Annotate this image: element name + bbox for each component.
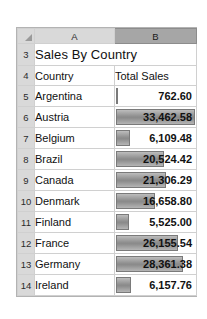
row-header-6[interactable]: 6 <box>18 107 35 128</box>
row-header-12[interactable]: 12 <box>18 233 35 254</box>
select-all-corner[interactable] <box>18 29 35 44</box>
cell-total-sales[interactable]: 5,525.00 <box>115 212 197 233</box>
table-row: 14Ireland6,157.76 <box>18 275 197 296</box>
column-header-b[interactable]: B <box>115 29 197 44</box>
cell-total-sales[interactable]: 6,157.76 <box>115 275 197 296</box>
cell-total-sales[interactable]: 28,361.38 <box>115 254 197 275</box>
cell-value: 20,524.42 <box>115 149 196 169</box>
cell-country[interactable]: Ireland <box>35 275 115 296</box>
page-title[interactable]: Sales By Country <box>35 44 197 66</box>
row-header-9[interactable]: 9 <box>18 170 35 191</box>
cell-country[interactable]: Argentina <box>35 86 115 107</box>
cell-value: 6,109.48 <box>115 128 196 148</box>
cell-total-sales[interactable]: 16,658.80 <box>115 191 197 212</box>
table-row: 13Germany28,361.38 <box>18 254 197 275</box>
cell-country[interactable]: Denmark <box>35 191 115 212</box>
row-header-5[interactable]: 5 <box>18 86 35 107</box>
cell-value: 28,361.38 <box>115 254 196 274</box>
cell-total-sales[interactable]: 762.60 <box>115 86 197 107</box>
table-row: 7Belgium6,109.48 <box>18 128 197 149</box>
row-header-8[interactable]: 8 <box>18 149 35 170</box>
row-header-7[interactable]: 7 <box>18 128 35 149</box>
row-header-4[interactable]: 4 <box>18 66 35 86</box>
cell-value: 16,658.80 <box>115 191 196 211</box>
cell-total-sales[interactable]: 6,109.48 <box>115 128 197 149</box>
cell-value: 21,306.29 <box>115 170 196 190</box>
cell-total-sales[interactable]: 20,524.42 <box>115 149 197 170</box>
column-label-country[interactable]: Country <box>35 66 115 86</box>
cell-country[interactable]: France <box>35 233 115 254</box>
cell-total-sales[interactable]: 21,306.29 <box>115 170 197 191</box>
row-header-11[interactable]: 11 <box>18 212 35 233</box>
cell-value: 762.60 <box>115 86 196 106</box>
table-row: 6Austria33,462.58 <box>18 107 197 128</box>
cell-country[interactable]: Germany <box>35 254 115 275</box>
cell-country[interactable]: Austria <box>35 107 115 128</box>
cell-total-sales[interactable]: 26,155.54 <box>115 233 197 254</box>
table-row: 5Argentina762.60 <box>18 86 197 107</box>
row-header-13[interactable]: 13 <box>18 254 35 275</box>
table-header-row: 4 Country Total Sales <box>18 66 197 86</box>
column-label-total-sales[interactable]: Total Sales <box>115 66 197 86</box>
select-all-triangle-icon <box>25 34 32 41</box>
cell-value: 33,462.58 <box>115 107 196 127</box>
title-row: 3 Sales By Country <box>18 44 197 66</box>
row-header-14[interactable]: 14 <box>18 275 35 296</box>
row-header-10[interactable]: 10 <box>18 191 35 212</box>
cell-country[interactable]: Belgium <box>35 128 115 149</box>
cell-total-sales[interactable]: 33,462.58 <box>115 107 197 128</box>
column-header-row: A B <box>18 29 197 44</box>
table-row: 11Finland5,525.00 <box>18 212 197 233</box>
table-row: 10Denmark16,658.80 <box>18 191 197 212</box>
cell-value: 6,157.76 <box>115 275 196 295</box>
table-row: 8Brazil20,524.42 <box>18 149 197 170</box>
sheet-table: A B 3 Sales By Country 4 Country Total S… <box>17 28 197 296</box>
row-header-3[interactable]: 3 <box>18 44 35 66</box>
cell-value: 26,155.54 <box>115 233 196 253</box>
spreadsheet-grid[interactable]: A B 3 Sales By Country 4 Country Total S… <box>16 27 197 297</box>
cell-country[interactable]: Brazil <box>35 149 115 170</box>
cell-value: 5,525.00 <box>115 212 196 232</box>
cell-country[interactable]: Canada <box>35 170 115 191</box>
table-row: 12France26,155.54 <box>18 233 197 254</box>
cell-country[interactable]: Finland <box>35 212 115 233</box>
table-row: 9Canada21,306.29 <box>18 170 197 191</box>
column-header-a[interactable]: A <box>35 29 115 44</box>
